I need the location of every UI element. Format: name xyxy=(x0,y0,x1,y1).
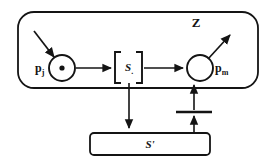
place-pm-subscript: m xyxy=(222,68,229,77)
token-dot-pj xyxy=(59,65,64,70)
module-z-label: Z xyxy=(192,15,201,30)
place-pj-subscript: j xyxy=(41,68,45,77)
subnet-sprime-label: S' xyxy=(145,138,154,150)
sbox-subscript: . xyxy=(131,67,133,76)
diagram-canvas: Z pj S. pm xyxy=(0,0,275,165)
petri-net-diagram: Z pj S. pm xyxy=(0,0,275,165)
